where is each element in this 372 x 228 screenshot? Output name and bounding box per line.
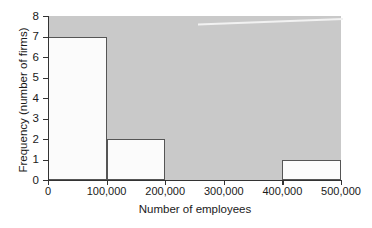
y-axis-tick <box>43 16 48 17</box>
y-axis-line <box>48 16 49 181</box>
x-axis-title: Number of employees <box>48 203 342 215</box>
x-axis-tick-label: 0 <box>28 186 68 197</box>
y-axis-tick <box>43 37 48 38</box>
histogram-bar <box>107 139 166 180</box>
x-axis-tick-label: 500,000 <box>306 186 372 197</box>
y-axis-tick <box>43 98 48 99</box>
histogram-bar <box>48 37 107 181</box>
histogram-bar <box>282 160 341 181</box>
plot-area <box>48 16 341 180</box>
y-axis-tick <box>43 160 48 161</box>
y-axis-tick <box>43 57 48 58</box>
x-axis-line <box>48 180 342 181</box>
y-axis-tick <box>43 119 48 120</box>
y-axis-tick <box>43 139 48 140</box>
y-axis-title: Frequency (number of firms) <box>17 15 29 185</box>
histogram-figure: 0 1 2 3 4 5 6 7 8 0 100,000 200,000 300,… <box>0 0 372 228</box>
y-axis-tick <box>43 78 48 79</box>
